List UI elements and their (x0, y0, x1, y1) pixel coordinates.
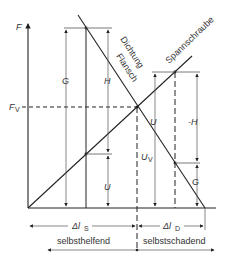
g-label-right: G (192, 177, 199, 187)
g-label-left: G (62, 76, 69, 86)
self-damaging-label: selbstschadend (143, 236, 206, 246)
h-label-left: H (104, 76, 111, 86)
preload-label: F V (9, 102, 20, 113)
svg-text:U: U (141, 152, 148, 162)
uv-label: U V (141, 152, 153, 163)
svg-text:D: D (175, 225, 180, 232)
svg-text:Δl: Δl (71, 221, 81, 231)
force-elongation-diagram: F F V Spannschraube Dichtung Flansch G H… (0, 0, 229, 266)
svg-text:V: V (15, 106, 20, 113)
minus-h-label-right: -H (188, 117, 198, 127)
svg-text:Δl: Δl (162, 221, 172, 231)
svg-text:S: S (84, 225, 89, 232)
y-axis-label: F (16, 22, 22, 32)
region-divider-point (136, 249, 139, 252)
u-label-left: U (104, 182, 111, 192)
u-label-right: U (150, 117, 157, 127)
svg-text:V: V (148, 156, 153, 163)
self-helping-label: selbsthelfend (57, 236, 110, 246)
